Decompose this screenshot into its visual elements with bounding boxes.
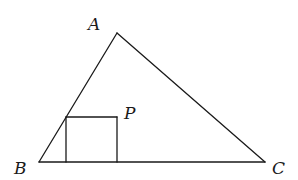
vertex-label-b: B xyxy=(13,158,27,178)
triangle-square-diagram: A B C P xyxy=(0,0,298,180)
vertex-label-a: A xyxy=(86,14,100,34)
vertex-label-c: C xyxy=(272,158,285,178)
point-label-p: P xyxy=(123,103,136,123)
side-ac xyxy=(117,33,265,162)
side-ab xyxy=(39,33,117,162)
